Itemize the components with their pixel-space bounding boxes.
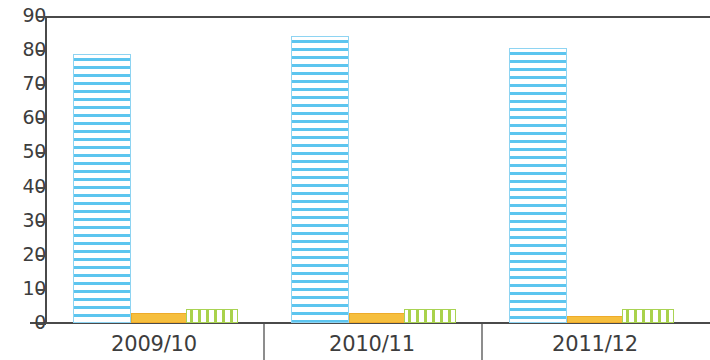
x-axis-category-label: 2009/10 — [45, 331, 263, 357]
x-axis-category-label: 2010/11 — [263, 331, 481, 357]
bar-green — [622, 309, 674, 323]
bar-orange — [567, 316, 625, 323]
bars-layer — [0, 0, 710, 323]
y-axis-tick-mark — [37, 323, 46, 325]
x-axis-category-label: 2011/12 — [481, 331, 709, 357]
bar-orange — [131, 313, 189, 323]
bar-orange — [349, 313, 407, 323]
bar-blue — [509, 48, 567, 323]
bar-green — [186, 309, 238, 323]
bar-blue — [291, 36, 349, 323]
bar-blue — [73, 54, 131, 323]
bar-chart: 9080706050403020100 2009/102010/112011/1… — [0, 0, 710, 360]
bar-green — [404, 309, 456, 323]
